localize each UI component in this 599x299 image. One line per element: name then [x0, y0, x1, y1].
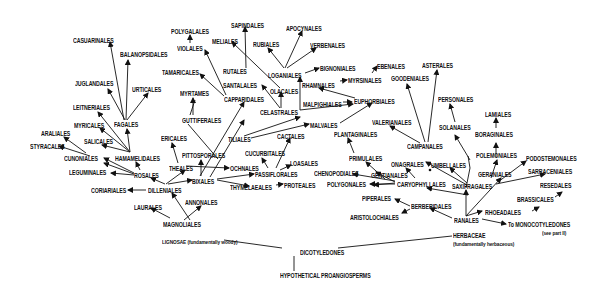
node-casuarinales: CASUARINALES — [73, 37, 114, 44]
node-proteales: PROTEALES — [284, 182, 315, 189]
node-olacales: OLACALES — [270, 88, 298, 95]
node-podostemonales: PODOSTEMONALES — [526, 155, 577, 162]
node-guttiferales: GUTTIFERALES — [182, 117, 221, 124]
node-chenopodiales: CHENOPODIALES — [314, 170, 359, 177]
node-lamiales: LAMIALES — [485, 111, 511, 118]
node-plantaginales: PLANTAGINALES — [334, 131, 377, 138]
node-bignoniales: BIGNONIALES — [320, 65, 356, 72]
node-lignosae: LIGNOSAE (fundamentally woody) — [162, 239, 237, 246]
node-theales: THEALES — [169, 165, 193, 172]
node-laurales: LAURALES — [134, 204, 162, 211]
phylogeny-diagram: CASUARINALESBALANOPSIDALESJUGLANDALESURT… — [0, 0, 599, 299]
node-ebenales: EBENALES — [377, 63, 405, 70]
node-ericales: ERICALES — [161, 135, 187, 142]
node-cucurbitales: CUCURBITALES — [245, 150, 285, 157]
node-primulales: PRIMULALES — [349, 155, 382, 162]
node-ranales: RANALES — [454, 217, 479, 224]
node-rheadales: RHOEADALES — [485, 209, 521, 216]
node-piperales: PIPERALES — [362, 195, 391, 202]
node-campanales: CAMPANALES — [407, 143, 443, 150]
node-geraniales: GERANIALES — [478, 171, 512, 178]
node-loganiales: LOGANIALES — [268, 72, 302, 79]
node-meliales: MELIALES — [212, 38, 238, 45]
node-resedales: RESEDALES — [540, 182, 571, 189]
node-umbellales: UMBELLALES — [431, 162, 466, 169]
node-celastrales: CELASTRALES — [260, 109, 298, 116]
node-styracales: STYRACALES — [30, 143, 65, 150]
node-rubiales: RUBIALES — [253, 41, 279, 48]
node-see-part: (see part II) — [542, 230, 566, 237]
node-santalales: SANTALALES — [223, 82, 257, 89]
node-rosales: ROSALES — [134, 172, 159, 179]
node-pittosporales: PITTOSPORALES — [182, 152, 225, 159]
node-violales: VIOLALES — [177, 45, 203, 52]
node-balanopsidales: BALANOPSIDALES — [120, 51, 167, 58]
node-coriariales: CORIARIALES — [91, 187, 126, 194]
node-myricales: MYRICALES — [74, 122, 104, 129]
node-rutales: RUTALES — [223, 68, 247, 75]
node-tiliales: TILIALES — [228, 136, 251, 143]
node-annonales: ANNONALES — [185, 199, 217, 206]
node-gentianales: GENTIANALES — [371, 172, 408, 179]
node-malvales: MALVALES — [310, 122, 337, 129]
node-hamamelidales: HAMAMELIDALES — [115, 155, 160, 162]
node-salicales: SALICALES — [84, 138, 113, 145]
node-capparidales: CAPPARIDALES — [224, 96, 264, 103]
node-passiflorales: PASSIFLORALES — [255, 171, 298, 178]
node-sapindales: SAPINDALES — [231, 22, 264, 29]
node-polygonales: POLYGONALES — [327, 181, 366, 188]
node-leitneriales: LEITNERIALES — [73, 104, 110, 111]
node-bixales: BIXALES — [192, 178, 214, 185]
node-proangiosperms: HYPOTHETICAL PROANGIOSPERMS — [280, 272, 371, 279]
node-tamaricales: TAMARICALES — [162, 69, 199, 76]
node-goodeniales: GOODENIALES — [391, 75, 429, 82]
node-dilleniales: DILLENIALES — [148, 187, 181, 194]
node-solanales: SOLANALES — [439, 124, 471, 131]
node-cunoniales: CUNONIALES — [64, 155, 98, 162]
node-sarraceniales: SARRACENIALES — [528, 168, 572, 175]
node-aristolochiales: ARISTOLOCHIALES — [350, 214, 399, 221]
node-valerianales: VALERIANALES — [372, 119, 411, 126]
node-dicotyledones: DICOTYLEDONES — [300, 249, 344, 256]
node-asterales: ASTERALES — [422, 62, 453, 69]
node-malpighiales: MALPIGHIALES — [303, 101, 342, 108]
node-loasales: LOASALES — [290, 160, 318, 167]
node-berberidales: BERBERIDALES — [411, 203, 451, 210]
node-rhamnales: RHAMNALES — [302, 82, 335, 89]
node-myrtames: MYRTAMES — [180, 90, 209, 97]
node-myrsinales: MYRSINALES — [348, 77, 382, 84]
node-saxifragales: SAXIFRAGALES — [452, 183, 492, 190]
node-boraginales: BORAGINALES — [475, 131, 513, 138]
node-euphorbiales: EUPHORBIALES — [354, 98, 395, 105]
node-polygalales: POLYGALALES — [171, 28, 209, 35]
node-juglandales: JUGLANDALES — [75, 80, 113, 87]
node-apocynales: APOCYNALES — [286, 25, 322, 32]
node-herbaceae-note: (fundamentally herbaceous) — [453, 241, 514, 248]
node-polemoniales: POLEMONIALES — [476, 152, 517, 159]
node-fagales: FAGALES — [114, 121, 138, 128]
node-thymelaeales: THYMELAEALES — [230, 184, 272, 191]
node-araliales: ARALIALES — [41, 130, 70, 137]
node-to-monocots: To MONOCOTYLEDONES — [508, 221, 570, 228]
node-urticales: URTICALES — [132, 86, 161, 93]
node-herbaceae: HERBACEAE — [453, 232, 485, 239]
node-verbenales: VERBENALES — [310, 42, 345, 49]
node-magnoliales: MAGNOLIALES — [163, 221, 201, 228]
dot-marker — [429, 169, 432, 172]
node-caryophyllales: CARYOPHYLLALES — [397, 181, 446, 188]
node-cactales: CACTALES — [277, 133, 304, 140]
node-brassicales: BRASSICALES — [517, 196, 554, 203]
node-onagrales: ONAGRALES — [391, 161, 424, 168]
node-leguminales: LEGUMINALES — [69, 169, 106, 176]
node-personales: PERSONALES — [438, 96, 473, 103]
